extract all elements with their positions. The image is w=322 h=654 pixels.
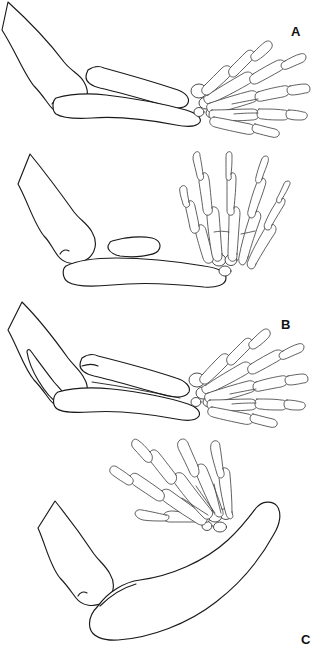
panel-a-drawing: [0, 0, 322, 150]
radius-remnant-bone-b: [108, 237, 160, 257]
digit-3-middle-b: [226, 152, 240, 262]
humerus-bone-d: [38, 501, 113, 605]
panel-c: C: [0, 300, 322, 440]
panel-b: B: [0, 148, 322, 298]
panel-a: A: [0, 0, 322, 150]
humerus-bone-b: [18, 154, 95, 263]
figure-root: A: [0, 0, 322, 654]
panel-d: D: [0, 436, 322, 654]
panel-d-drawing: [0, 436, 322, 654]
panel-b-drawing: [0, 148, 322, 298]
panel-c-drawing: [0, 300, 322, 440]
panel-label-a: A: [291, 25, 301, 38]
ulna-bone-b: [63, 258, 226, 287]
curved-fused-forearm-bone-d: [89, 502, 279, 640]
